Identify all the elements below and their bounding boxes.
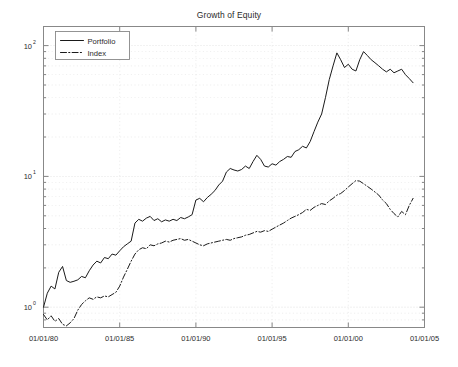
gridlines <box>45 28 424 328</box>
x-tick-label: 01/01/05 <box>410 334 439 343</box>
svg-text:10: 10 <box>24 42 32 51</box>
legend-label-index: Index <box>88 49 107 58</box>
y-tick-label: 100 <box>24 300 36 312</box>
svg-text:1: 1 <box>33 169 36 175</box>
svg-text:0: 0 <box>33 300 36 306</box>
figure-container: Growth of Equity 100101102 01/01/8001/01… <box>0 0 458 367</box>
x-tick-label: 01/01/85 <box>105 334 134 343</box>
data-series-layer <box>44 52 414 326</box>
series-line-index <box>44 181 414 326</box>
svg-text:10: 10 <box>24 303 32 312</box>
y-tick-label: 101 <box>24 169 36 181</box>
chart-plot: 100101102 01/01/8001/01/8501/01/9001/01/… <box>0 0 458 367</box>
x-tick-label: 01/01/90 <box>181 334 210 343</box>
legend-label-portfolio: Portfolio <box>88 37 116 46</box>
y-tick-label: 102 <box>24 39 36 51</box>
series-line-portfolio <box>44 52 414 308</box>
y-axis-tick-labels: 100101102 <box>24 39 36 313</box>
x-axis-tick-labels: 01/01/8001/01/8501/01/9001/01/9501/01/00… <box>29 334 439 343</box>
x-tick-label: 01/01/80 <box>29 334 58 343</box>
axis-ticks <box>44 27 425 328</box>
svg-text:2: 2 <box>33 39 36 45</box>
chart-legend: PortfolioIndex <box>56 32 130 60</box>
x-tick-label: 01/01/95 <box>257 334 286 343</box>
svg-text:10: 10 <box>24 172 32 181</box>
x-tick-label: 01/01/00 <box>334 334 363 343</box>
plot-frame <box>44 27 425 328</box>
